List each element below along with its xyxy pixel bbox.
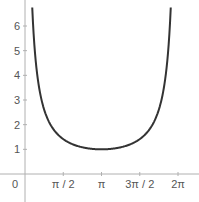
x-tick-label: 0	[12, 178, 18, 190]
y-tick-label: 1	[14, 143, 20, 155]
x-tick-label: 2π	[171, 178, 185, 190]
plot-area: 0π / 2π3π / 22π 123456	[0, 0, 199, 202]
y-tick-label: 4	[14, 69, 20, 81]
x-tick-label: 3π / 2	[125, 178, 154, 190]
chart: 0π / 2π3π / 22π 123456	[0, 0, 199, 202]
y-tick-label: 5	[14, 45, 20, 57]
y-tick-label: 3	[14, 94, 20, 106]
x-tick-group: 0π / 2π3π / 22π	[12, 172, 185, 190]
y-tick-label: 2	[14, 119, 20, 131]
x-tick-label: π	[98, 178, 106, 190]
y-tick-label: 6	[14, 20, 20, 32]
x-tick-label: π / 2	[52, 178, 75, 190]
function-curve	[32, 8, 171, 150]
